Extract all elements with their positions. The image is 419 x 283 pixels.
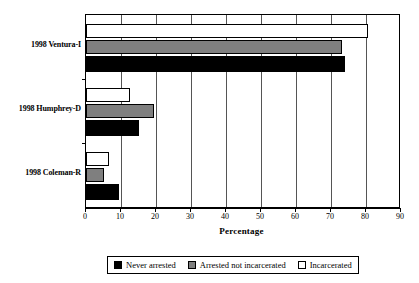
- bar-coleman-arrested-not-incarcerated: [86, 168, 104, 182]
- legend-label-arrested-not-incarcerated: Arrested not incarcerated: [200, 260, 286, 270]
- bar-group-ventura: [86, 15, 399, 77]
- y-axis-label-coleman: 1998 Coleman-R: [3, 168, 81, 177]
- legend-item-arrested-not-incarcerated: Arrested not incarcerated: [188, 260, 286, 270]
- x-tick-label-70: 70: [318, 212, 342, 221]
- bar-ventura-arrested-not-incarcerated: [86, 40, 342, 54]
- legend-item-never-arrested: Never arrested: [114, 260, 176, 270]
- x-tick-label-50: 50: [248, 212, 272, 221]
- bar-ventura-incarcerated: [86, 24, 368, 38]
- bar-coleman-incarcerated: [86, 152, 109, 166]
- bar-coleman-never-arrested: [86, 184, 119, 200]
- x-tick-label-30: 30: [178, 212, 202, 221]
- x-axis-title-wrapper: Percentage: [0, 226, 419, 236]
- bar-ventura-never-arrested: [86, 56, 345, 72]
- bar-humphrey-incarcerated: [86, 88, 130, 102]
- gray-square-icon: [188, 261, 196, 269]
- x-axis-line: [85, 208, 401, 209]
- x-tick-label-10: 10: [108, 212, 132, 221]
- x-tick-label-90: 90: [388, 212, 412, 221]
- legend-item-incarcerated: Incarcerated: [298, 260, 352, 270]
- y-axis-label-humphrey: 1998 Humphrey-D: [3, 104, 81, 113]
- legend-label-incarcerated: Incarcerated: [310, 260, 352, 270]
- bar-group-humphrey: [86, 79, 399, 141]
- x-tick-label-80: 80: [353, 212, 377, 221]
- bar-humphrey-never-arrested: [86, 120, 139, 136]
- black-square-icon: [114, 261, 122, 269]
- bar-humphrey-arrested-not-incarcerated: [86, 104, 154, 118]
- bar-group-coleman: [86, 143, 399, 205]
- bar-chart-figure: 1998 Ventura-I 1998 Humphrey-D 1998 Cole…: [0, 0, 419, 283]
- legend-label-never-arrested: Never arrested: [126, 260, 176, 270]
- white-square-icon: [298, 261, 306, 269]
- x-tick-label-20: 20: [143, 212, 167, 221]
- x-axis-title: Percentage: [219, 226, 263, 236]
- chart-legend: Never arrested Arrested not incarcerated…: [107, 256, 359, 274]
- x-tick-label-0: 0: [73, 212, 97, 221]
- x-tick-label-60: 60: [283, 212, 307, 221]
- x-tick-label-40: 40: [213, 212, 237, 221]
- y-axis-label-ventura: 1998 Ventura-I: [3, 40, 81, 49]
- plot-area: [85, 14, 400, 208]
